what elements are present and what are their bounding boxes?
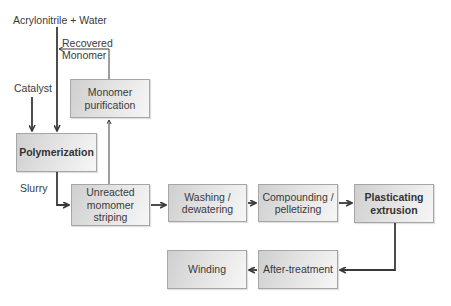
- node-monomer-purification: Monomer purification: [70, 79, 150, 118]
- node-compounding-pelletizing: Compounding / pelletizing: [258, 184, 338, 222]
- node-compounding-line1: Compounding /: [262, 191, 333, 204]
- node-washing-line1: Washing /: [182, 191, 233, 204]
- node-washing-dewatering: Washing / dewatering: [168, 184, 247, 222]
- slurry-arrow: [57, 172, 69, 205]
- node-unreacted-line1: Unreacted: [86, 186, 134, 199]
- node-plasticating-line1: Plasticating: [365, 191, 424, 204]
- node-after-treatment-label: After-treatment: [263, 263, 333, 276]
- node-monomer-purification-line2: purification: [85, 99, 136, 112]
- recovered-monomer-label-line2: Monomer: [62, 50, 113, 62]
- node-plasticating-extrusion: Plasticating extrusion: [354, 184, 434, 223]
- node-monomer-purification-line1: Monomer: [85, 86, 136, 99]
- node-unreacted-line2: momomer: [86, 199, 134, 212]
- catalyst-label: Catalyst: [14, 82, 52, 94]
- node-winding: Winding: [167, 250, 247, 289]
- node-polymerization: Polymerization: [16, 133, 97, 172]
- node-compounding-line2: pelletizing: [262, 203, 333, 216]
- plasticating-to-after-treatment-arrow: [340, 223, 395, 270]
- recovered-monomer-label: Recovered Monomer: [62, 38, 113, 61]
- process-flow-diagram: Acrylonitrile + Water Recovered Monomer …: [0, 0, 451, 306]
- node-unreacted-monomer-stripping: Unreacted momomer striping: [71, 184, 150, 226]
- node-after-treatment: After-treatment: [258, 250, 338, 289]
- feed-label: Acrylonitrile + Water: [13, 14, 107, 26]
- node-unreacted-line3: striping: [86, 211, 134, 224]
- node-polymerization-label: Polymerization: [19, 146, 94, 159]
- node-washing-line2: dewatering: [182, 203, 233, 216]
- recovered-monomer-label-line1: Recovered: [62, 38, 113, 50]
- slurry-label: Slurry: [20, 182, 47, 194]
- node-plasticating-line2: extrusion: [365, 204, 424, 217]
- node-winding-label: Winding: [188, 263, 226, 276]
